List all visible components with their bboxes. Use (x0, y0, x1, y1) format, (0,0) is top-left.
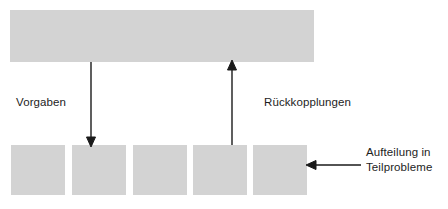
label-aufteilung-line-1: Aufteilung in (366, 146, 431, 158)
label-vorgaben: Vorgaben (16, 95, 66, 110)
arrow-left-aufteilung (306, 161, 361, 170)
sub-problem-block-2 (72, 145, 126, 195)
arrow-up-rueckkopplungen (228, 60, 237, 145)
label-rueckkopplungen: Rückkopplungen (264, 95, 351, 110)
label-aufteilung-line-2: Teilprobleme (366, 161, 432, 173)
sub-problem-block-3 (133, 145, 187, 195)
arrow-down-vorgaben (87, 62, 96, 147)
overall-problem-block (10, 10, 314, 62)
sub-problem-block-4 (193, 145, 247, 195)
sub-problem-block-1 (11, 145, 65, 195)
diagram-canvas: Vorgaben Rückkopplungen Aufteilung in Te… (0, 0, 448, 209)
sub-problem-block-5 (253, 145, 307, 195)
label-aufteilung-in-teilprobleme: Aufteilung in Teilprobleme (366, 145, 446, 175)
